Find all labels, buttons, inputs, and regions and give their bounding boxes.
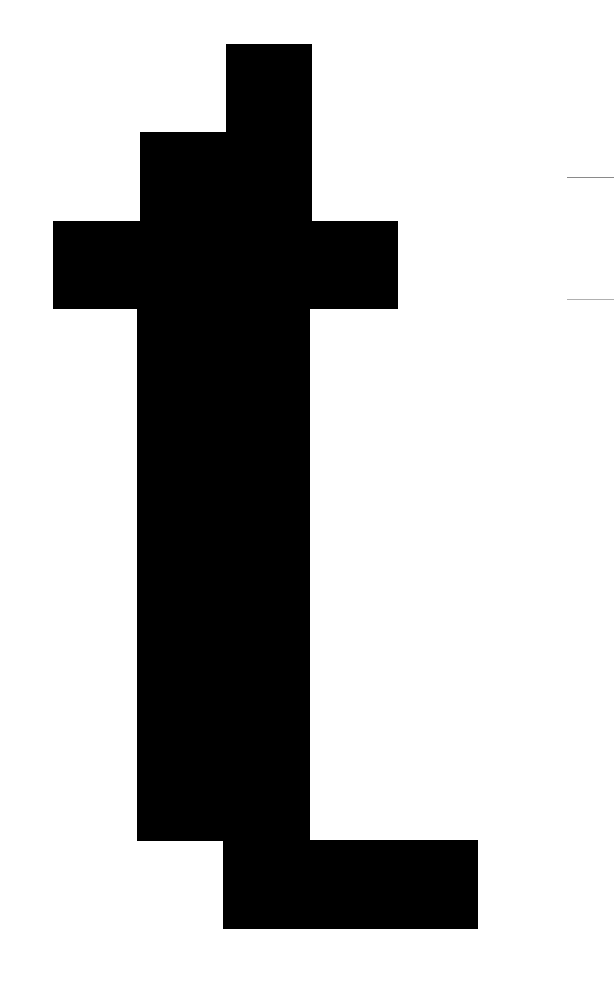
lower-guide-line [567,299,614,300]
glyph-character: t [0,0,1,1]
stem-block [137,308,310,841]
top-block [226,44,312,132]
crossbar-block [53,221,398,309]
upper-step-block [140,132,312,222]
pixel-letter-t: t [0,0,614,998]
upper-guide-line [567,177,614,178]
foot-block [223,840,478,929]
